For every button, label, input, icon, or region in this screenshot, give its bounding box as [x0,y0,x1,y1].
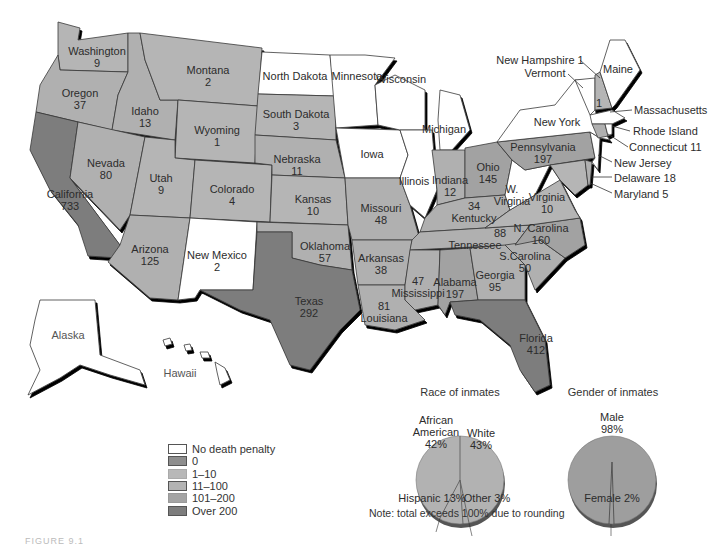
state-alaska [28,300,145,395]
label-new-hampshire: New Hampshire 1 [496,54,583,66]
label-wyoming: Wyoming1 [194,124,240,148]
label-pennsylvania: Pennsylvania197 [510,141,575,165]
label-oklahoma: Oklahoma57 [300,240,350,264]
label-wisconsin: Wisconsin [376,73,426,85]
legend-item: No death penalty [168,443,275,455]
label-alaska: Alaska [51,329,84,341]
label-illinois: Illinois [399,175,430,187]
legend-swatch-none [168,444,187,454]
race-pie-white: White43% [467,427,495,451]
label-utah: Utah9 [149,172,172,196]
label-massachusetts: Massachusetts [634,104,707,116]
legend-swatch-101-200 [168,493,187,503]
label-montana: Montana2 [187,64,230,88]
label-s-carolina: S.Carolina50 [499,250,550,274]
label-maryland: Maryland 5 [614,188,668,200]
label-arkansas: Arkansas38 [358,252,404,276]
race-pie [416,436,505,536]
label-ohio: Ohio145 [476,161,499,185]
label-new-mexico: New Mexico2 [187,249,247,273]
label-n-carolina: N. Carolina160 [513,222,568,246]
legend-item: 0 [168,455,275,467]
state-hawaii-4 [215,362,230,385]
label-vermont: Vermont [525,67,566,79]
label-maine: Maine [603,63,633,75]
label-iowa: Iowa [360,148,383,160]
state-hawaii-3 [200,352,210,358]
legend-item: 101–200 [168,492,275,504]
figure-caption: FIGURE 9.1 [25,536,84,546]
label-delaware: Delaware 18 [614,172,676,184]
legend-swatch-1-10 [168,469,187,479]
label-oregon: Oregon37 [62,87,99,111]
label-south-dakota: South Dakota3 [263,108,330,132]
label-florida: Florida412 [519,332,553,356]
label-new-jersey: New Jersey [614,157,671,169]
label-washington: Washington9 [68,45,126,69]
label-kansas: Kansas10 [295,193,332,217]
race-pie-hispanic: Hispanic 13% [398,492,465,504]
label-minnesota: Minnesota [332,70,383,82]
legend-item: 1–10 [168,468,275,480]
label-w-virginia: W.Virginia [494,183,531,207]
label-virginia: Virginia10 [529,191,566,215]
race-pie-note: Note: total exceeds 100% due to rounding [369,507,565,519]
race-pie-african-american: AfricanAmerican42% [413,414,459,450]
state-michigan [438,90,470,150]
map-legend: No death penalty 0 1–10 11–100 101–200 O… [168,443,275,517]
label-colorado: Colorado4 [210,183,255,207]
label-california: California733 [47,188,93,212]
label-nebraska: Nebraska11 [273,153,320,177]
legend-item: 11–100 [168,480,275,492]
label-north-dakota: North Dakota [263,70,328,82]
race-pie-title: Race of inmates [420,386,499,398]
label-indiana: Indiana12 [432,174,468,198]
label-arizona: Arizona125 [131,243,168,267]
gender-pie [568,436,657,536]
legend-swatch-11-100 [168,481,187,491]
legend-swatch-over-200 [168,506,187,516]
label-texas: Texas292 [295,295,324,319]
label-nevada: Nevada80 [87,157,125,181]
state-hawaii-1 [163,338,172,346]
label-louisiana: 81Louisiana [360,300,407,324]
state-hawaii-2 [184,344,192,351]
label-idaho: Idaho13 [131,105,159,129]
gender-pie-female: Female 2% [584,492,640,504]
gender-pie-male: Male98% [600,411,624,435]
label-rhode-island: Rhode Island [633,125,698,137]
label-hawaii: Hawaii [163,367,196,379]
legend-swatch-0 [168,456,187,466]
label-michigan: Michigan [422,123,466,135]
label-connecticut: Connecticut 11 [629,141,702,153]
label-kentucky: 34Kentucky [451,200,496,224]
race-pie-other: Other 3% [464,492,510,504]
label-missouri: Missouri48 [361,202,402,226]
label-new-hampshire-value: 1 [596,97,602,109]
label-tennessee: 88Tennessee [444,227,506,251]
label-new-york: New York [534,116,580,128]
legend-item: Over 200 [168,504,275,516]
label-alabama: Alabama197 [433,276,476,300]
gender-pie-title: Gender of inmates [568,386,659,398]
